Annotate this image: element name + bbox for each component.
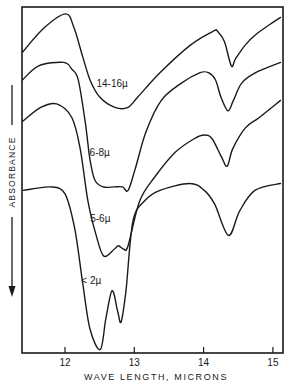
spectrum-curves [23, 14, 281, 350]
x-tick-label: 13 [129, 357, 141, 368]
series-label-2: 6-8µ [90, 147, 110, 158]
spectrum-curve-1 [23, 14, 281, 109]
series-label-1: 14-16µ [96, 78, 128, 89]
x-tick-label: 15 [267, 357, 279, 368]
spectrum-curve-4 [23, 184, 280, 350]
series-label-4: < 2µ [81, 275, 101, 286]
spectrum-curve-3 [23, 100, 281, 256]
series-label-3: 5-6µ [90, 213, 110, 224]
y-axis-label-group: ABSORBANCE [7, 85, 17, 297]
x-axis-label: WAVE LENGTH, MICRONS [84, 372, 228, 382]
down-arrow-icon [9, 286, 16, 297]
y-axis-label: ABSORBANCE [7, 136, 17, 207]
x-tick-label: 14 [198, 357, 210, 368]
ir-absorbance-chart: 14-16µ6-8µ5-6µ< 2µ 12131415 WAVE LENGTH,… [0, 0, 292, 388]
x-axis-ticks: 12131415 [59, 347, 278, 368]
x-tick-label: 12 [59, 357, 71, 368]
